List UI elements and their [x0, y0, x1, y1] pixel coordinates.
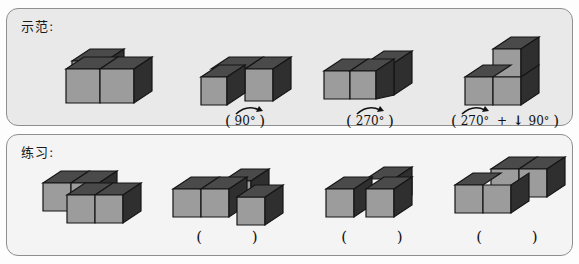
- rotation-degrees: 270: [461, 114, 484, 128]
- demo-caption-rot270-down90: ( 270° + ↓ 90° ): [435, 112, 575, 130]
- caption-close-paren: ): [397, 228, 403, 246]
- demo-shape-original: [62, 35, 162, 110]
- caption-close-paren: ): [252, 228, 258, 246]
- demo-panel: 示范:: [6, 8, 573, 126]
- rotation-degrees: 270: [356, 114, 379, 128]
- rotation-value-group: 270°: [461, 114, 489, 128]
- caption-open-paren: (: [196, 228, 202, 246]
- caption-open-paren: (: [225, 112, 231, 130]
- demo-shape-rot270: [320, 41, 420, 113]
- demo-caption-rot270: ( 270° ): [320, 112, 420, 130]
- caption-open-paren: (: [451, 112, 457, 130]
- caption-close-paren: ): [553, 112, 559, 130]
- curved-rotation-arrow-icon: [355, 105, 385, 116]
- plus-sign: +: [497, 114, 507, 128]
- caption-open-paren: (: [341, 228, 347, 246]
- practice-shape-4: [447, 149, 567, 237]
- rotation-degrees: 90: [235, 114, 250, 128]
- down-arrow-icon: ↓: [513, 113, 524, 128]
- caption-close-paren: ): [388, 112, 394, 130]
- demo-caption-rot90: ( 90° ): [195, 112, 295, 130]
- degree-symbol: °: [484, 115, 490, 128]
- practice-caption-2: ( ): [167, 228, 287, 246]
- rotation-value-group: 270°: [356, 114, 384, 128]
- demo-panel-label: 示范:: [21, 16, 54, 35]
- curved-rotation-arrow-icon: [234, 105, 264, 116]
- degree-symbol: °: [379, 115, 385, 128]
- worksheet-page: 示范:: [0, 0, 579, 264]
- practice-panel: 练习:: [6, 134, 573, 256]
- practice-caption-4: ( ): [447, 228, 567, 246]
- demo-shape-rot90: [195, 39, 295, 114]
- demo-shape-rot270-plus-down90: [455, 31, 555, 113]
- rotation-value-group: 90°: [235, 114, 256, 128]
- caption-open-paren: (: [476, 228, 482, 246]
- degree-symbol: °: [250, 115, 256, 128]
- caption-close-paren: ): [532, 228, 538, 246]
- caption-open-paren: (: [346, 112, 352, 130]
- second-rotation-degrees: 90: [529, 114, 544, 128]
- practice-caption-3: ( ): [312, 228, 432, 246]
- curved-rotation-arrow-icon: [460, 105, 490, 116]
- practice-shape-1: [35, 161, 155, 241]
- practice-panel-label: 练习:: [21, 142, 54, 161]
- second-degree-symbol: °: [544, 115, 550, 128]
